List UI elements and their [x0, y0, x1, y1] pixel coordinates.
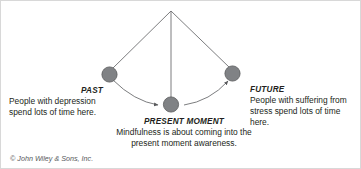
past-description-line-2: spend lots of time here.: [9, 107, 103, 118]
past-description-line-1: People with depression: [9, 96, 103, 107]
apex-to-future-line: [171, 11, 230, 68]
future-node-circle[interactable]: [225, 66, 240, 81]
present-label-block: PRESENT MOMENT Mindfulness is about comi…: [97, 116, 271, 149]
present-title: PRESENT MOMENT: [97, 116, 271, 127]
future-description-line-1: People with suffering from: [250, 95, 358, 106]
copyright-credit: © John Wiley & Sons, Inc.: [10, 154, 93, 163]
past-label-block: PAST People with depression spend lots o…: [9, 85, 103, 118]
future-title: FUTURE: [250, 84, 358, 95]
apex-to-past-line: [113, 11, 171, 68]
present-to-future-arrow: [184, 81, 228, 105]
past-to-present-arrow: [113, 80, 158, 105]
present-description-line-2: present moment awareness.: [97, 138, 271, 149]
present-description-line-1: Mindfulness is about coming into the: [97, 127, 271, 138]
past-title: PAST: [9, 85, 103, 96]
present-node-circle[interactable]: [163, 97, 178, 112]
figure-container: PAST People with depression spend lots o…: [0, 0, 361, 169]
past-node-circle[interactable]: [102, 67, 117, 82]
